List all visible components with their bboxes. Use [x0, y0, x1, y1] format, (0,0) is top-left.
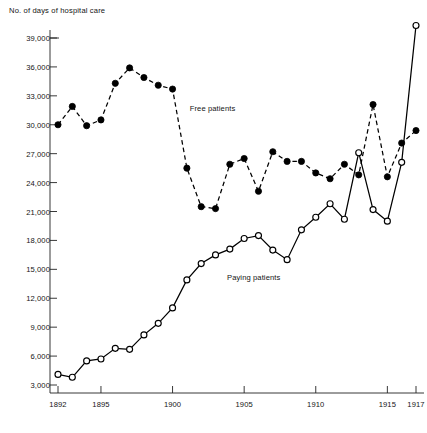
data-point-marker: [198, 204, 204, 210]
data-point-marker: [341, 216, 347, 222]
data-point-marker: [184, 165, 190, 171]
series-free-patients: [55, 65, 419, 212]
series-label-paying-patients: Paying patients: [227, 273, 280, 282]
data-point-marker: [241, 235, 247, 241]
data-point-marker: [341, 161, 347, 167]
series-label-free-patients: Free patients: [190, 104, 236, 113]
data-point-marker: [255, 233, 261, 239]
data-point-marker: [98, 117, 104, 123]
data-point-marker: [298, 227, 304, 233]
data-point-marker: [327, 201, 333, 207]
data-point-marker: [356, 150, 362, 156]
data-point-marker: [356, 172, 362, 178]
data-point-marker: [198, 261, 204, 267]
data-point-marker: [69, 374, 75, 380]
data-point-marker: [55, 371, 61, 377]
series-line: [58, 68, 416, 209]
data-point-marker: [384, 174, 390, 180]
data-point-marker: [84, 358, 90, 364]
data-point-marker: [370, 207, 376, 213]
data-point-marker: [184, 277, 190, 283]
data-point-marker: [384, 218, 390, 224]
data-point-marker: [112, 80, 118, 86]
data-point-marker: [255, 188, 261, 194]
data-point-marker: [413, 22, 419, 28]
data-point-marker: [169, 86, 175, 92]
data-point-marker: [141, 74, 147, 80]
data-point-marker: [227, 161, 233, 167]
data-point-marker: [112, 345, 118, 351]
y-axis-ticks: [50, 38, 57, 385]
data-point-marker: [55, 122, 61, 128]
data-point-marker: [141, 332, 147, 338]
data-point-marker: [313, 214, 319, 220]
data-point-marker: [270, 149, 276, 155]
data-point-marker: [127, 65, 133, 71]
data-point-marker: [155, 320, 161, 326]
data-point-marker: [212, 206, 218, 212]
data-point-marker: [127, 346, 133, 352]
series-line: [58, 25, 416, 377]
data-point-marker: [98, 356, 104, 362]
data-point-marker: [370, 101, 376, 107]
data-point-marker: [399, 159, 405, 165]
data-point-marker: [313, 170, 319, 176]
data-point-marker: [327, 176, 333, 182]
plot-area: [0, 0, 427, 433]
data-point-marker: [241, 155, 247, 161]
data-point-marker: [227, 246, 233, 252]
chart-root: No. of days of hospital care 3,0006,0009…: [0, 0, 427, 433]
data-point-marker: [84, 123, 90, 129]
data-point-marker: [270, 247, 276, 253]
data-point-marker: [284, 158, 290, 164]
data-point-marker: [284, 257, 290, 263]
data-point-marker: [298, 158, 304, 164]
series-layer: [55, 22, 419, 380]
data-point-marker: [413, 127, 419, 133]
axis-lines: [50, 30, 424, 393]
data-point-marker: [155, 82, 161, 88]
series-paying-patients: [55, 22, 419, 380]
data-point-marker: [170, 305, 176, 311]
data-point-marker: [69, 103, 75, 109]
x-axis-ticks: [58, 386, 416, 393]
data-point-marker: [213, 252, 219, 258]
